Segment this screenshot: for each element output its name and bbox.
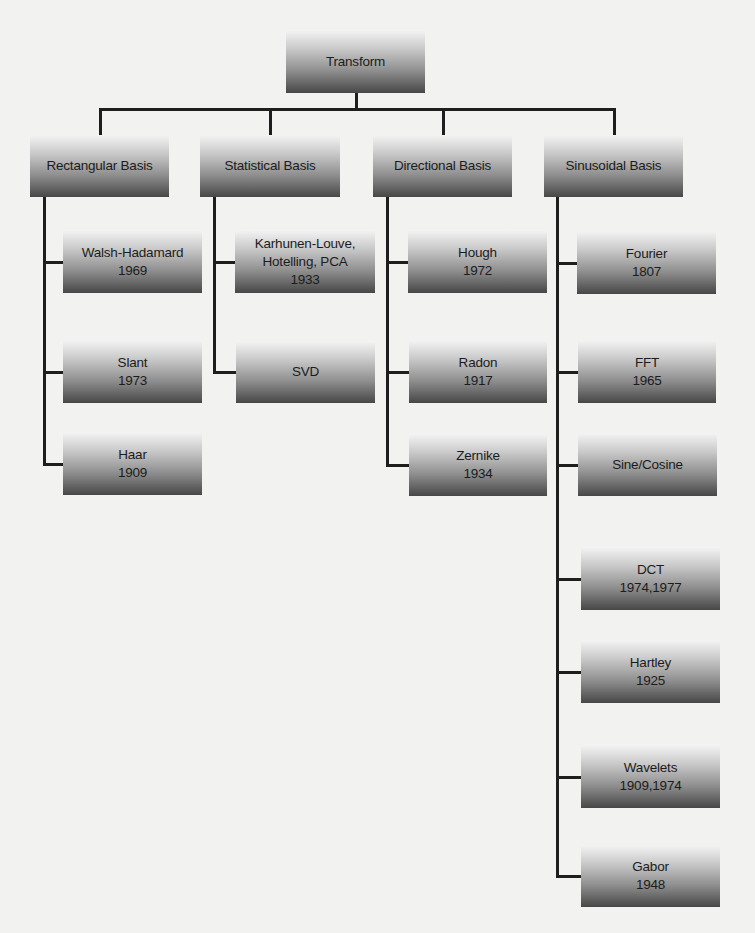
trunk-connector-directional-basis [386, 197, 389, 467]
node-label: Hotelling, PCA [263, 253, 348, 271]
branch-connector-haar [43, 463, 63, 466]
branch-connector-zernike [386, 464, 409, 467]
node-year: 1934 [463, 465, 492, 483]
leaf-node-gabor: Gabor1948 [581, 845, 720, 907]
leaf-node-karhunen-louve: Karhunen-Louve,Hotelling, PCA1933 [235, 230, 375, 293]
node-year: 1948 [636, 876, 665, 894]
node-year: 1925 [636, 672, 665, 690]
branch-connector-gabor [556, 875, 581, 878]
node-label: FFT [635, 354, 659, 372]
drop-connector-rectangular-basis [99, 108, 102, 135]
leaf-node-dct: DCT1974,1977 [581, 547, 720, 610]
branch-connector-svd [213, 371, 236, 374]
drop-connector-directional-basis [442, 108, 445, 135]
node-year: 1969 [118, 262, 147, 280]
node-year: 1973 [118, 372, 147, 390]
branch-connector-hough [386, 261, 408, 264]
branch-connector-wavelets [556, 776, 581, 779]
node-label: Hough [458, 244, 497, 262]
leaf-node-wavelets: Wavelets1909,1974 [581, 745, 720, 808]
leaf-node-walsh-hadamard: Walsh-Hadamard1969 [63, 230, 202, 293]
node-label: Sinusoidal Basis [566, 157, 662, 175]
leaf-node-slant: Slant1973 [63, 340, 202, 403]
leaf-node-radon: Radon1917 [409, 340, 547, 403]
node-label: Directional Basis [394, 157, 491, 175]
node-label: DCT [637, 561, 664, 579]
node-label: Sine/Cosine [612, 456, 683, 474]
node-label: Wavelets [624, 759, 677, 777]
leaf-node-hartley: Hartley1925 [581, 640, 720, 703]
node-year: 1909,1974 [619, 777, 681, 795]
root-stem-connector [355, 93, 358, 108]
node-label: Zernike [456, 447, 500, 465]
transform-taxonomy-diagram: TransformRectangular BasisWalsh-Hadamard… [0, 0, 755, 933]
node-label: Rectangular Basis [46, 157, 152, 175]
node-label: Gabor [632, 858, 669, 876]
branch-connector-fft [556, 371, 578, 374]
node-label: Slant [118, 354, 148, 372]
node-year: 1974,1977 [619, 579, 681, 597]
leaf-node-zernike: Zernike1934 [409, 434, 547, 496]
node-label: Fourier [626, 245, 667, 263]
category-node-sinusoidal-basis: Sinusoidal Basis [544, 135, 683, 197]
node-label: Transform [326, 53, 385, 71]
leaf-node-fft: FFT1965 [578, 340, 716, 403]
leaf-node-hough: Hough1972 [408, 230, 547, 293]
category-node-statistical-basis: Statistical Basis [200, 135, 340, 197]
drop-connector-statistical-basis [269, 108, 272, 135]
leaf-node-fourier: Fourier1807 [577, 231, 716, 294]
node-label: Haar [118, 446, 146, 464]
node-year: 1909 [118, 464, 147, 482]
node-year: 1972 [463, 262, 492, 280]
trunk-connector-rectangular-basis [43, 197, 46, 466]
category-bus-connector [99, 108, 616, 111]
node-label: Statistical Basis [224, 157, 315, 175]
branch-connector-fourier [556, 262, 577, 265]
branch-connector-radon [386, 371, 409, 374]
trunk-connector-statistical-basis [213, 197, 216, 374]
branch-connector-hartley [556, 671, 581, 674]
branch-connector-dct [556, 578, 581, 581]
branch-connector-slant [43, 371, 63, 374]
node-label: Walsh-Hadamard [82, 244, 184, 262]
node-year: 1917 [463, 372, 492, 390]
node-year: 1807 [632, 263, 661, 281]
node-year: 1965 [632, 372, 661, 390]
node-label: Karhunen-Louve, [255, 235, 356, 253]
leaf-node-haar: Haar1909 [63, 432, 202, 495]
drop-connector-sinusoidal-basis [613, 108, 616, 135]
root-node-transform: Transform [286, 30, 425, 93]
node-label: SVD [292, 363, 319, 381]
leaf-node-sine-cosine: Sine/Cosine [578, 433, 717, 496]
category-node-directional-basis: Directional Basis [373, 135, 512, 197]
branch-connector-walsh-hadamard [43, 261, 63, 264]
node-year: 1933 [290, 271, 319, 289]
node-label: Hartley [630, 654, 671, 672]
category-node-rectangular-basis: Rectangular Basis [30, 135, 169, 197]
branch-connector-karhunen-louve [213, 261, 235, 264]
leaf-node-svd: SVD [236, 341, 375, 403]
node-label: Radon [459, 354, 498, 372]
branch-connector-sine-cosine [556, 464, 578, 467]
